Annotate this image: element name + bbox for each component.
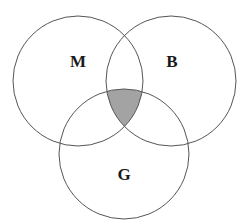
label-b: B [166, 52, 177, 71]
label-g: G [117, 165, 130, 184]
circle-m [13, 16, 143, 146]
circle-b [106, 16, 236, 146]
label-m: M [70, 52, 86, 71]
venn-diagram: M B G [0, 0, 248, 224]
shaded-intersection-region [59, 89, 189, 219]
